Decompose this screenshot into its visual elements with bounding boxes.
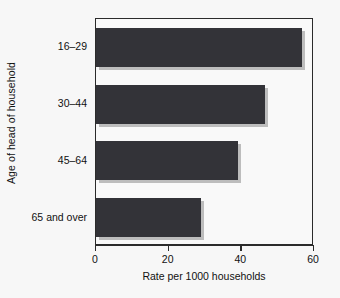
bar (96, 28, 302, 67)
bar-fill (96, 28, 302, 67)
bar (96, 141, 238, 180)
y-axis-tick-labels: 16–2930–4445–6465 and over (22, 18, 91, 245)
y-axis-tick-label: 30–44 (58, 97, 87, 109)
x-axis-tick (313, 245, 314, 251)
bar-chart: Age of head of household 16–2930–4445–64… (0, 0, 340, 298)
bar (96, 85, 265, 124)
x-axis-tick-label: 60 (307, 253, 319, 265)
x-axis-tick (168, 245, 169, 251)
y-axis-title: Age of head of household (0, 0, 22, 245)
y-axis-tick-label: 65 and over (32, 211, 87, 223)
bar-fill (96, 85, 265, 124)
x-axis-tick-label: 40 (234, 253, 246, 265)
y-axis-tick-label: 45–64 (58, 154, 87, 166)
bar-fill (96, 141, 238, 180)
y-axis-title-text: Age of head of household (5, 61, 17, 183)
x-axis-tick (240, 245, 241, 251)
x-axis-tick-label: 20 (162, 253, 174, 265)
x-axis-tick (95, 245, 96, 251)
x-axis-title: Rate per 1000 households (95, 270, 313, 282)
bar-fill (96, 198, 201, 237)
bar (96, 198, 201, 237)
x-axis-tick-label: 0 (92, 253, 98, 265)
y-axis-tick-label: 16–29 (58, 40, 87, 52)
plot-area (95, 18, 313, 245)
x-axis-line (95, 245, 313, 246)
